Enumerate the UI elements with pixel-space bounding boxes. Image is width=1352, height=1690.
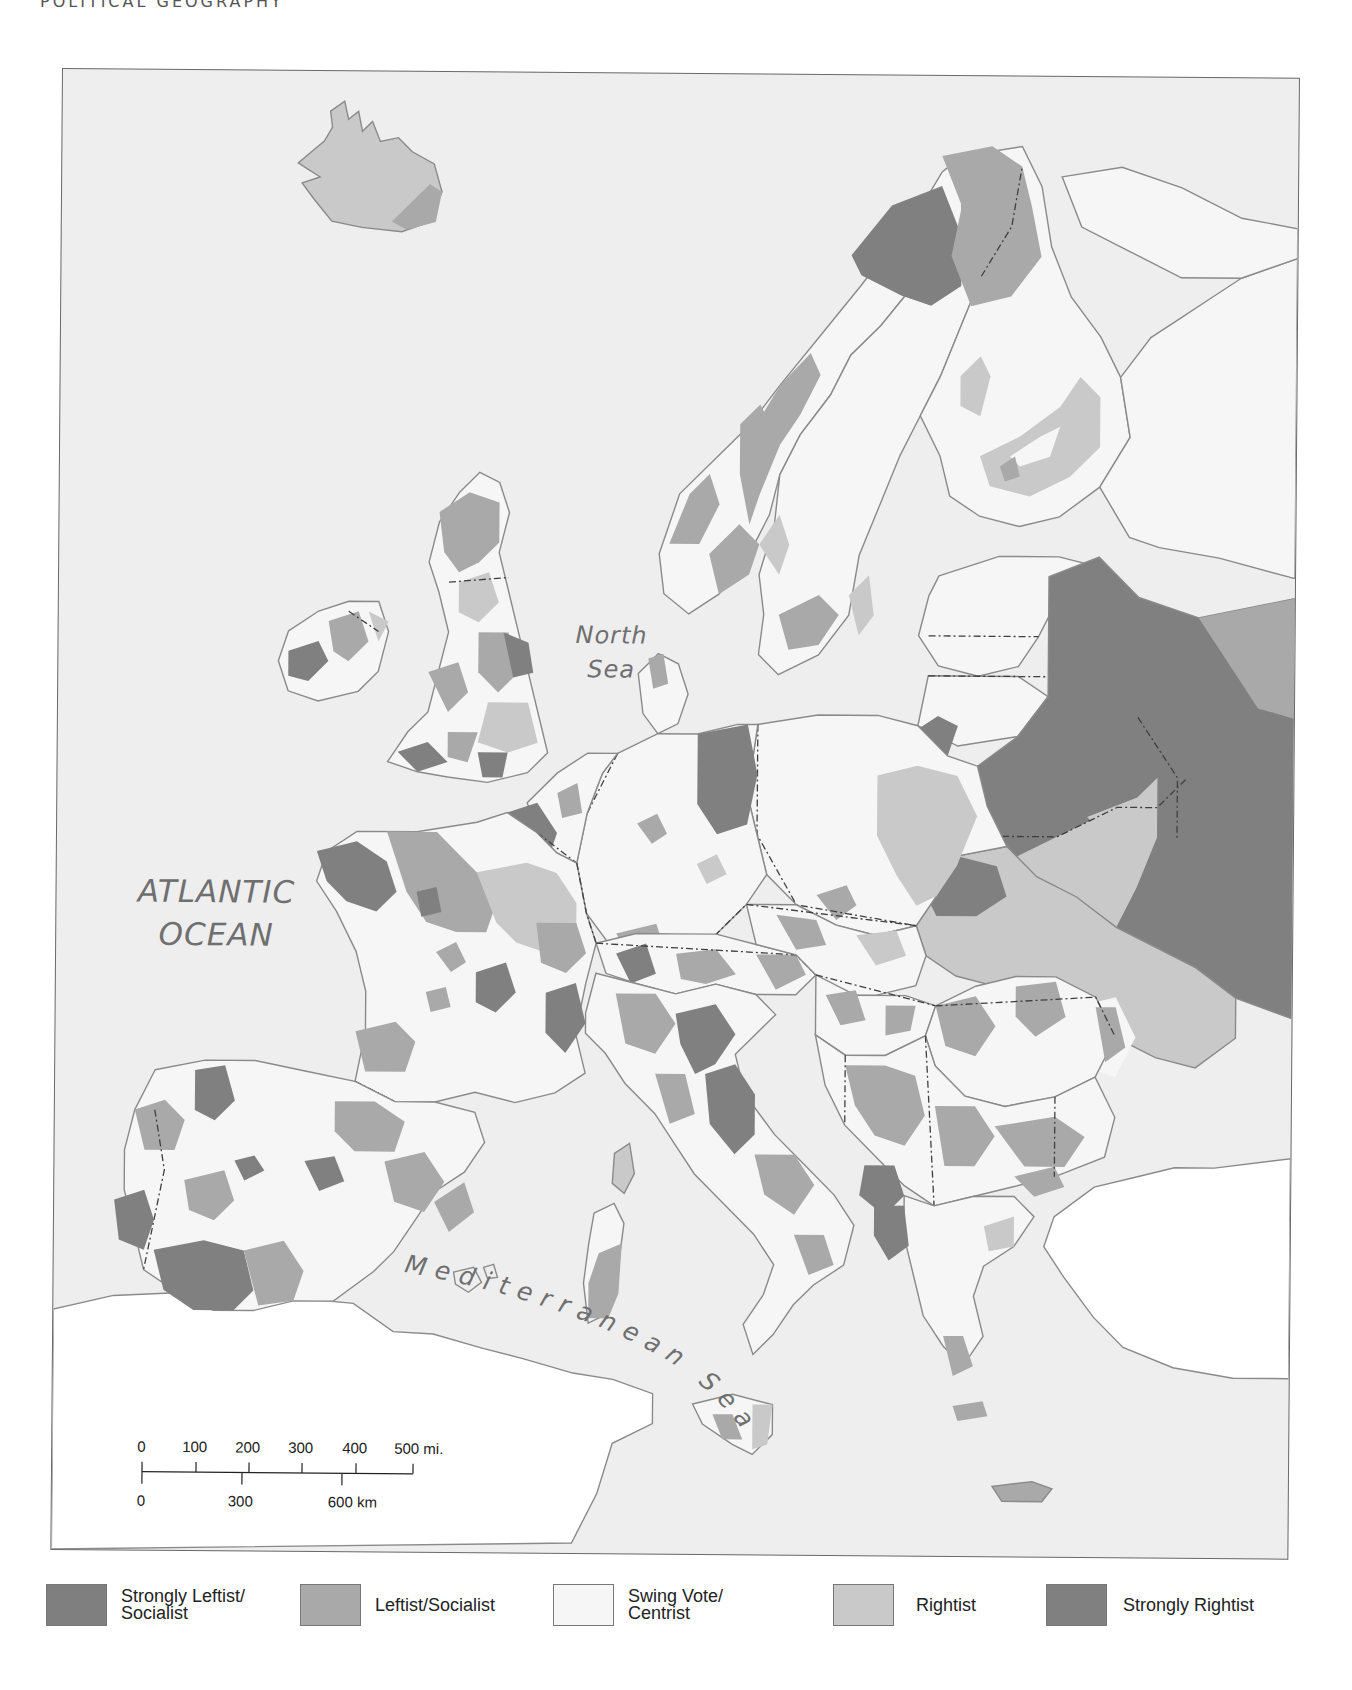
scale-mi-400: 400 (342, 1439, 367, 1456)
legend-label: Leftist/Socialist (375, 1597, 495, 1614)
legend-label: Swing Vote/ Centrist (628, 1588, 723, 1622)
russia-north (1099, 257, 1298, 579)
legend-item-rightist: Rightist (833, 1580, 976, 1630)
legend-item-strongly-leftist: Strongly Leftist/ Socialist (46, 1580, 245, 1630)
north-sea-label: North Sea (566, 623, 657, 692)
scale-mi-200: 200 (235, 1438, 260, 1455)
north-sea-line1: North (566, 623, 656, 648)
legend-item-strongly-rightist: Strongly Rightist (1046, 1580, 1254, 1630)
iceland (298, 101, 443, 232)
scale-km-600: 600 km (328, 1493, 377, 1510)
scale-bar: 0 100 200 300 400 500 mi. 0 300 600 km (92, 1429, 453, 1532)
legend-label: Rightist (916, 1597, 976, 1614)
map-frame: .sl { fill: #7f7f7f; } .le { fill: #a9a9… (50, 68, 1300, 1560)
france (315, 811, 597, 1103)
scale-mi-300: 300 (288, 1439, 313, 1456)
greece (872, 1195, 1034, 1421)
turkey (1043, 1157, 1291, 1379)
legend-label: Strongly Leftist/ Socialist (121, 1588, 245, 1622)
atlantic-ocean-label: ATLANTIC OCEAN (126, 876, 307, 963)
ireland (278, 601, 389, 702)
swatch-swing (553, 1584, 614, 1626)
swatch-leftist (300, 1584, 361, 1626)
scale-mi-100: 100 (182, 1438, 207, 1455)
scale-mi-0: 0 (137, 1438, 145, 1455)
crete (992, 1481, 1052, 1501)
scale-km-300: 300 (228, 1492, 253, 1509)
atlantic-label-line2: OCEAN (126, 919, 306, 951)
running-header: POLITICAL GEOGRAPHY (40, 0, 284, 11)
swatch-strongly-rightist (1046, 1584, 1107, 1626)
scale-mi-500: 500 mi. (394, 1440, 443, 1457)
europe-electoral-map: .sl { fill: #7f7f7f; } .le { fill: #a9a9… (51, 69, 1299, 1559)
legend-item-leftist: Leftist/Socialist (300, 1580, 495, 1630)
scale-km-0: 0 (137, 1492, 145, 1509)
swatch-strongly-leftist (46, 1584, 107, 1626)
atlantic-label-line1: ATLANTIC (126, 876, 306, 908)
legend-item-swing: Swing Vote/ Centrist (553, 1580, 723, 1630)
north-sea-line2: Sea (566, 657, 656, 682)
legend: Strongly Leftist/ Socialist Leftist/Soci… (0, 1580, 1352, 1640)
great-britain (387, 472, 549, 783)
legend-label: Strongly Rightist (1123, 1597, 1254, 1614)
swatch-rightist (833, 1584, 894, 1626)
